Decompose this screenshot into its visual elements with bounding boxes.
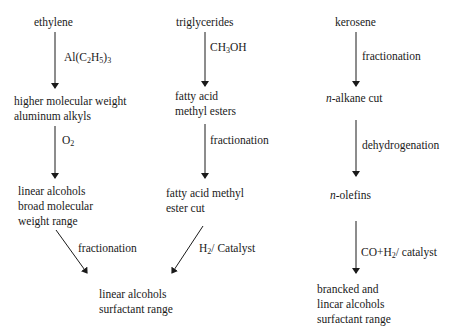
edge-label-methanol: CH3OH	[210, 40, 247, 55]
edge-label-triethylaluminum: Al(C2H5)3	[64, 50, 111, 65]
node-fatty-acid-methyl-esters: fatty acid methyl esters	[175, 89, 236, 119]
node-branched-linear-alcohols: brancked and lincar alcohols surfactant …	[317, 282, 391, 327]
node-ester-cut: fatty acid methyl ester cut	[166, 186, 244, 216]
edge-label-fractionation-3: fractionation	[362, 49, 421, 64]
node-ethylene: ethylene	[34, 15, 73, 30]
node-linear-alcohols-surfactant: linear alcohols surfactant range	[99, 287, 173, 317]
node-n-olefins: n-olefins	[330, 188, 371, 203]
node-kerosene: kerosene	[335, 15, 376, 30]
edge-label-oxygen: O2	[62, 133, 74, 148]
node-n-alkane-cut: n-alkane cut	[326, 91, 383, 106]
node-aluminum-alkyls: higher molecular weight aluminum alkyls	[14, 94, 126, 124]
edge-label-hydrogen-catalyst: H2/ Catalyst	[199, 241, 255, 256]
edge-label-dehydrogenation: dehydrogenation	[362, 138, 439, 153]
edge-label-fractionation-2: fractionation	[210, 133, 269, 148]
node-linear-alcohols-broad: linear alcohols broad molecular weight r…	[18, 184, 93, 229]
node-triglycerides: triglycerides	[176, 15, 233, 30]
edge-label-fractionation-1: fractionation	[78, 241, 137, 256]
edge-label-syngas-catalyst: CO+H2/ catalyst	[361, 245, 437, 260]
